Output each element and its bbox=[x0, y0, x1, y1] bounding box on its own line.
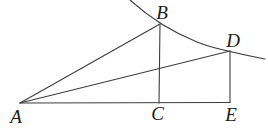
segment-AB bbox=[20, 24, 160, 103]
point-label-A: A bbox=[8, 106, 22, 127]
point-label-C: C bbox=[151, 103, 164, 124]
geometry-diagram: ABCDE bbox=[0, 0, 268, 129]
point-label-D: D bbox=[225, 30, 240, 51]
segment-AD bbox=[20, 51, 230, 103]
point-label-B: B bbox=[156, 2, 168, 23]
diagram-canvas: ABCDE bbox=[0, 0, 268, 129]
segment-AE bbox=[20, 103, 230, 104]
segment-BC bbox=[159, 24, 160, 103]
point-label-E: E bbox=[224, 104, 237, 125]
